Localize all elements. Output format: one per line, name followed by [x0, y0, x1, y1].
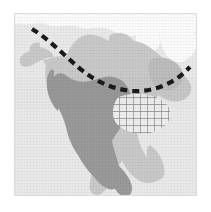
map-graphic [14, 13, 197, 196]
range-map-figure: North America species distribution map G… [0, 0, 211, 212]
map-canvas [14, 13, 197, 196]
